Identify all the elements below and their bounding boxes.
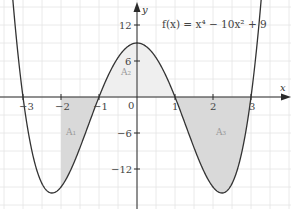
function-plot: −3 −2 −1 0 1 2 3 12 6 −6 −12 x y A₁ A₂ A… [0, 0, 291, 209]
area-label-a1: A₁ [65, 127, 76, 137]
x-axis-label: x [280, 82, 286, 93]
x-axis-arrow-icon [281, 94, 291, 101]
y-axis-label: y [141, 4, 148, 15]
y-tick-label: 12 [119, 20, 132, 31]
area-label-a3: A₃ [215, 127, 226, 137]
x-tick-label: −1 [93, 101, 108, 112]
y-tick-label: −6 [117, 128, 132, 139]
x-tick-label: 3 [249, 101, 255, 112]
x-tick-label: −3 [19, 101, 34, 112]
x-tick-label: 2 [210, 101, 216, 112]
function-formula: f(x) = x⁴ − 10x² + 9 [162, 18, 267, 30]
x-tick-label: 0 [128, 100, 134, 111]
y-tick-label: −12 [111, 164, 132, 175]
area-label-a2: A₂ [120, 67, 131, 77]
y-tick-label: 6 [125, 56, 131, 67]
x-tick-label: −2 [55, 101, 70, 112]
x-tick-label: 1 [172, 101, 178, 112]
